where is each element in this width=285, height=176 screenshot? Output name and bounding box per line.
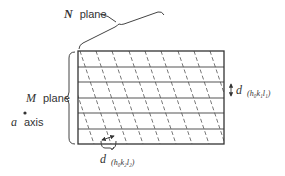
n-plane-label: N plane (63, 4, 107, 21)
d2-spacing-arrow (102, 136, 114, 140)
m-plane-label: M plane (25, 88, 70, 105)
a-axis-dot (23, 111, 26, 114)
crystal-plane-diagram: N plane M plane a axis d (h₀k₁l₁) d (h₀k… (0, 0, 285, 176)
d2-label: d (h₀k₂l₂) (100, 149, 135, 167)
a-axis-label: a axis (11, 112, 44, 129)
d1-label: d (h₀k₁l₁) (236, 80, 271, 98)
